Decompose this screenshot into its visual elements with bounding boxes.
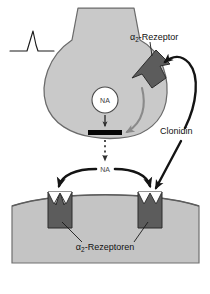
clonidin-to-autoreceptor-arrow (165, 57, 196, 128)
clonidin-to-postsynaptic-arrow (156, 141, 181, 188)
vesicle-label: NA (100, 97, 110, 104)
active-zone-bar (88, 130, 122, 135)
diagram-canvas: NA α2-Rezeptor Clonidin NA (0, 0, 210, 294)
postsynaptic-cell (12, 195, 199, 263)
na-branch-arrow-left (59, 169, 96, 186)
action-potential-icon (10, 31, 54, 51)
clonidin-label: Clonidin (160, 126, 193, 136)
synapse-diagram: NA α2-Rezeptor Clonidin NA (0, 0, 210, 294)
cleft-na-label: NA (100, 166, 110, 173)
na-branch-arrow-right (115, 169, 150, 186)
alpha2-receptors-label: α2-Rezeptoren (76, 242, 134, 253)
alpha2-receptor-label-suffix: -Rezeptor (139, 32, 179, 42)
alpha2-receptors-label-suffix: -Rezeptoren (85, 242, 135, 252)
